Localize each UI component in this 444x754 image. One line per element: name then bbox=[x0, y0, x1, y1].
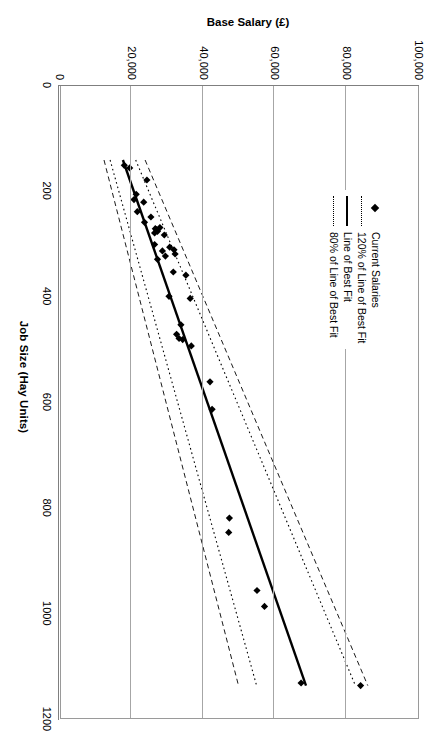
x-axis-ticks: 0 200 400 600 800 1000 1200 bbox=[32, 0, 52, 754]
legend-label: Current Salaries bbox=[368, 232, 382, 308]
y-axis-ticks: 100,000 80,000 60,000 40,000 20,000 0 bbox=[0, 0, 444, 80]
x-tick-label: 1000 bbox=[41, 583, 52, 643]
x-axis-title: Job Size (Hay Units) bbox=[18, 0, 30, 754]
diamond-marker-icon bbox=[368, 194, 382, 228]
legend-item-120pct: 120% of Line of Best Fit bbox=[354, 194, 368, 343]
x-tick-label: 800 bbox=[41, 478, 52, 538]
gridline-60000 bbox=[273, 86, 274, 718]
chart-figure: Current Salaries 120% of Line of Best Fi… bbox=[0, 0, 444, 754]
dotted-line-icon bbox=[354, 194, 368, 228]
x-tick-label: 1200 bbox=[41, 689, 52, 749]
legend-item-current-salaries: Current Salaries bbox=[368, 194, 382, 343]
series-line-80pct bbox=[110, 160, 257, 686]
rotated-figure-wrapper: Current Salaries 120% of Line of Best Fi… bbox=[0, 0, 444, 754]
legend-label: Line of Best Fit bbox=[340, 232, 354, 302]
series-line-best-fit bbox=[123, 160, 306, 686]
y-tick-label: 20,000 bbox=[126, 2, 137, 80]
gridline-40000 bbox=[202, 86, 203, 718]
y-axis-title: Base Salary (£) bbox=[148, 16, 348, 28]
legend-label: 80% of Line of Best Fit bbox=[326, 232, 340, 338]
y-tick-label: 40,000 bbox=[198, 2, 209, 80]
legend-label: 120% of Line of Best Fit bbox=[354, 232, 368, 343]
x-axis-line bbox=[58, 85, 59, 720]
x-tick-label: 600 bbox=[41, 372, 52, 432]
y-tick-label: 80,000 bbox=[341, 2, 352, 80]
legend-item-80pct: 80% of Line of Best Fit bbox=[326, 194, 340, 343]
y-axis-line bbox=[59, 85, 419, 86]
x-tick-label: 400 bbox=[41, 266, 52, 326]
gridline-80000 bbox=[345, 86, 346, 718]
data-layer bbox=[59, 86, 418, 720]
plot-area: Current Salaries 120% of Line of Best Fi… bbox=[60, 85, 419, 719]
x-tick-label: 200 bbox=[41, 161, 52, 221]
solid-line-icon bbox=[340, 194, 354, 228]
y-tick-label: 60,000 bbox=[269, 2, 280, 80]
x-tick-label: 0 bbox=[41, 55, 52, 115]
gridline-20000 bbox=[130, 86, 131, 718]
y-tick-label: 0 bbox=[54, 2, 65, 80]
series-line-lower-outer bbox=[104, 160, 239, 686]
y-tick-label: 100,000 bbox=[413, 2, 424, 80]
dotted-line-icon bbox=[326, 194, 340, 228]
chart-legend: Current Salaries 120% of Line of Best Fi… bbox=[322, 190, 385, 349]
legend-item-best-fit: Line of Best Fit bbox=[340, 194, 354, 343]
